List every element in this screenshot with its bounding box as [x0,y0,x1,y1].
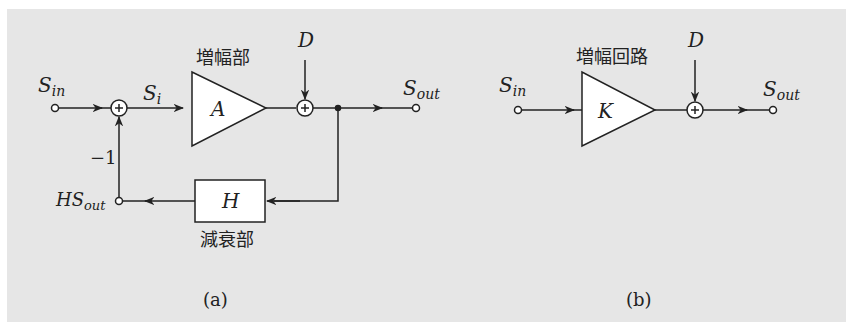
label-s-out-a: Sout [403,76,440,102]
amplifier-a-title: 増幅部 [196,47,250,68]
feedback-block-title: 減衰部 [200,229,254,250]
amplifier-b-title: 増幅回路 [576,46,648,67]
block-diagrams: Sin Si 増幅部 A D Sout H 減衰部 HSout −1 (a) S… [0,0,858,334]
label-s-in-b: Sin [499,73,526,99]
label-d-b: D [687,28,704,52]
caption-b: (b) [626,289,652,310]
label-hs-out: HSout [55,189,106,213]
caption-a: (a) [203,289,228,310]
input-terminal-b [515,107,522,114]
label-s-i: Si [143,81,161,107]
label-s-out-b: Sout [763,77,800,103]
feedback-terminal-a [116,198,123,205]
amplifier-a-symbol: A [209,97,225,121]
feedback-block-symbol: H [221,189,240,213]
input-terminal-a [52,105,59,112]
diagram-b [515,60,777,146]
label-s-in-a: Sin [38,73,65,99]
feedback-gain: −1 [90,147,117,168]
amplifier-b [582,72,655,146]
amplifier-a [192,72,266,146]
label-d-a: D [297,28,314,52]
output-terminal-b [770,107,777,114]
output-terminal-a [413,105,420,112]
amplifier-b-symbol: K [597,99,614,123]
